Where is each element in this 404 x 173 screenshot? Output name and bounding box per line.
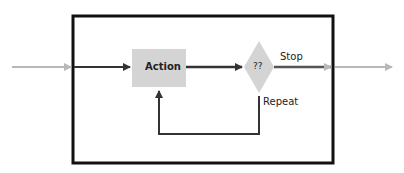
loop-frame bbox=[73, 16, 333, 163]
repeat-label: Repeat bbox=[263, 96, 298, 107]
repeat-loop-arrow bbox=[159, 91, 259, 134]
loop-diagram bbox=[0, 0, 404, 173]
stop-label: Stop bbox=[280, 51, 303, 62]
action-label: Action bbox=[145, 61, 181, 72]
decision-label: ?? bbox=[253, 61, 263, 71]
